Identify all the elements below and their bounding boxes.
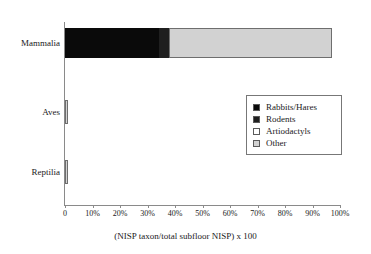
x-tick-label: 70% (250, 209, 265, 218)
x-tick-mark (203, 205, 204, 208)
legend-swatch-other (253, 140, 260, 147)
legend-item: Artiodactyls (253, 125, 337, 137)
x-tick-mark (65, 205, 66, 208)
legend-label: Rabbits/Hares (266, 102, 317, 112)
x-tick-label: 100% (331, 209, 350, 218)
bar-segment-rodents (159, 28, 170, 58)
legend-label: Artiodactyls (266, 126, 311, 136)
x-tick-label: 60% (223, 209, 238, 218)
x-tick-mark (285, 205, 286, 208)
x-tick-mark (148, 205, 149, 208)
x-tick-label: 20% (113, 209, 128, 218)
legend-swatch-artiodactyls (253, 128, 260, 135)
x-axis-title: (NISP taxon/total subfloor NISP) x 100 (0, 231, 371, 242)
legend-swatch-rodents (253, 116, 260, 123)
category-label-mammalia: Mammalia (21, 38, 60, 48)
category-label-aves: Aves (42, 107, 60, 117)
bar-mammalia (65, 28, 332, 58)
x-tick-label: 80% (278, 209, 293, 218)
category-label-reptilia: Reptilia (32, 167, 61, 177)
bar-segment-other (65, 100, 68, 124)
bar-segment-other (65, 160, 68, 184)
bar-aves (65, 100, 68, 124)
x-tick-label: 30% (140, 209, 155, 218)
x-tick-mark (340, 205, 341, 208)
x-tick-mark (230, 205, 231, 208)
stacked-bar-chart: 010%20%30%40%50%60%70%80%90%100% (NISP t… (0, 0, 371, 254)
x-tick-mark (175, 205, 176, 208)
x-tick-label: 10% (85, 209, 100, 218)
x-tick-label: 50% (195, 209, 210, 218)
x-tick-label: 0 (63, 209, 67, 218)
legend-label: Other (266, 138, 287, 148)
chart-legend: Rabbits/Hares Rodents Artiodactyls Other (246, 95, 342, 155)
legend-item: Other (253, 137, 337, 149)
legend-label: Rodents (266, 114, 296, 124)
bar-segment-rabbits-hares (65, 28, 159, 58)
x-tick-mark (120, 205, 121, 208)
bar-reptilia (65, 160, 68, 184)
legend-swatch-rabbits-hares (253, 104, 260, 111)
x-tick-mark (258, 205, 259, 208)
x-tick-label: 90% (305, 209, 320, 218)
legend-item: Rabbits/Hares (253, 101, 337, 113)
x-tick-mark (93, 205, 94, 208)
bar-segment-other (169, 28, 331, 58)
legend-item: Rodents (253, 113, 337, 125)
x-tick-mark (313, 205, 314, 208)
x-tick-label: 40% (168, 209, 183, 218)
